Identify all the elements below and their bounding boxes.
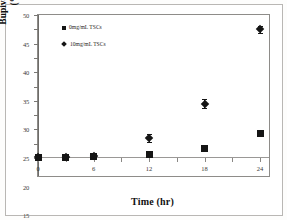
y-axis-tick: 5 (34, 144, 38, 145)
y-axis-title-line2: (% of donor) (9, 0, 20, 38)
y-axis-tick: 45 (34, 29, 38, 30)
x-axis-tick-label: 0 (36, 165, 39, 172)
square-marker-icon (257, 130, 264, 137)
y-axis-line (38, 15, 39, 176)
x-axis-tick (260, 158, 261, 162)
y-axis-tick-label: 20 (23, 183, 29, 190)
y-axis-title-line1: Bupivacaine Delivered (0, 0, 9, 38)
x-axis-title: Time (hr) (37, 196, 268, 207)
y-axis-tick-label: 15 (23, 212, 29, 219)
y-axis-tick-label: 25 (23, 155, 29, 162)
y-axis-tick-label: 45 (23, 40, 29, 47)
y-axis-tick: 40 (34, 44, 38, 45)
square-marker-icon (201, 145, 208, 152)
y-axis-tick: 15 (34, 115, 38, 116)
y-axis-tick-label: 35 (23, 97, 29, 104)
y-axis-tick-label: 40 (23, 69, 29, 76)
square-marker-icon (146, 151, 153, 158)
legend-label-1: 10mg/mL TSCs (70, 42, 106, 48)
y-axis-title: Bupivacaine Delivered (% of donor) (0, 0, 19, 38)
y-axis-tick-label: 30 (23, 126, 29, 133)
legend-item-0: 0mg/mL TSCs (62, 25, 106, 31)
y-axis-tick: 10 (34, 129, 38, 130)
x-axis-tick-label: 6 (92, 165, 95, 172)
diamond-marker-icon (200, 99, 208, 107)
y-axis-tick: 30 (34, 72, 38, 73)
legend-item-1: 10mg/mL TSCs (62, 42, 106, 48)
y-axis-tick: 35 (34, 58, 38, 59)
y-axis-tick: 20 (34, 101, 38, 102)
chart-legend: 0mg/mL TSCs 10mg/mL TSCs (62, 25, 106, 58)
y-axis-tick: 25 (34, 87, 38, 88)
x-axis-tick-label: 12 (146, 165, 153, 172)
plot-frame: 0510152025303540455006121824 0mg/mL TSCs… (37, 14, 270, 177)
x-axis-tick (121, 158, 122, 162)
x-axis-tick-label: 24 (257, 165, 264, 172)
x-axis-tick (232, 158, 233, 162)
legend-diamond-marker-icon (61, 42, 67, 48)
legend-label-0: 0mg/mL TSCs (69, 25, 102, 31)
x-axis-tick (177, 158, 178, 162)
legend-square-marker-icon (62, 26, 66, 30)
y-axis-tick: 50 (34, 15, 38, 16)
figure-root: Bupivacaine Delivered (% of donor) Time … (0, 0, 287, 220)
y-axis-tick-label: 50 (23, 12, 29, 19)
x-axis-line (38, 157, 269, 158)
x-axis-tick-label: 18 (201, 165, 208, 172)
x-axis-tick (205, 158, 206, 162)
x-axis-tick (149, 158, 150, 162)
